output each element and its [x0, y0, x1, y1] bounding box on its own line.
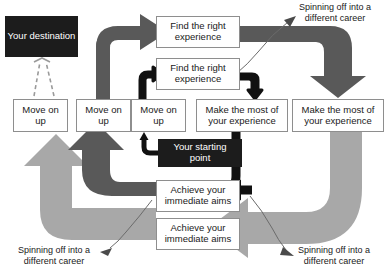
- node-find-2: Find the right experience: [156, 58, 240, 90]
- node-label: Find the right experience: [170, 63, 225, 85]
- node-starting-point: Your starting point: [158, 139, 242, 167]
- node-label: Move on up: [140, 105, 176, 127]
- node-move-3: Move on up: [131, 99, 186, 132]
- node-label: Your starting point: [174, 142, 227, 164]
- node-label: Achieve your immediate aims: [165, 223, 232, 245]
- node-find-1: Find the right experience: [156, 16, 240, 48]
- diagram-canvas: Your destinationFind the right experienc…: [0, 0, 384, 280]
- node-make-2: Make the most of your experience: [292, 99, 384, 132]
- node-label: Move on up: [22, 105, 58, 127]
- node-move-1: Move on up: [13, 99, 68, 132]
- node-move-2: Move on up: [76, 99, 131, 132]
- node-label: Move on up: [85, 105, 121, 127]
- caption-spinoff-top-right: Spinning off into a different career: [286, 2, 384, 24]
- node-make-1: Make the most of your experience: [196, 99, 288, 132]
- node-label: Achieve your immediate aims: [165, 185, 232, 207]
- node-label: Make the most of your experience: [302, 105, 375, 127]
- node-achieve-2: Achieve your immediate aims: [156, 218, 240, 250]
- node-label: Make the most of your experience: [206, 105, 279, 127]
- caption-spinoff-bottom-right: Spinning off into a different career: [284, 245, 384, 267]
- inner-arrow-find2-to-make1: [240, 74, 262, 99]
- inner-arrow-start-to-move3: [140, 132, 159, 153]
- caption-spinoff-bottom-left: Spinning off into a different career: [2, 245, 106, 267]
- middle-arrow-achieve1-to-move2: [68, 122, 156, 196]
- node-destination: Your destination: [5, 16, 78, 57]
- node-label: Your destination: [8, 31, 76, 42]
- node-achieve-1: Achieve your immediate aims: [156, 180, 240, 212]
- dashed-destination-links: [34, 58, 54, 96]
- node-label: Find the right experience: [170, 21, 225, 43]
